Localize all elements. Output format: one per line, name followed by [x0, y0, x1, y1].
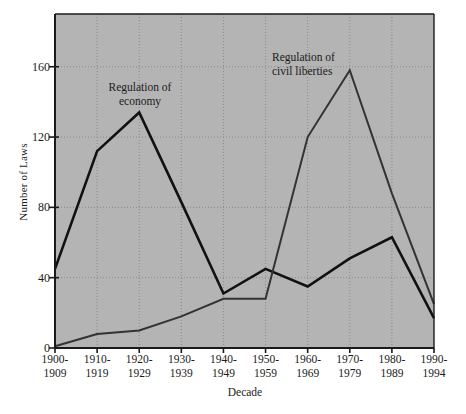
y-tick-label: 160: [16, 61, 50, 73]
y-tick-label: 40: [16, 272, 50, 284]
annotation-economy-line2: economy: [86, 94, 194, 108]
x-tick-label: 1990-1994: [406, 352, 462, 380]
annotation-economy-line1: Regulation of: [86, 80, 194, 94]
annotation-civil-line1: Regulation of: [272, 50, 380, 64]
annotation-regulation-of-economy: Regulation of economy: [86, 80, 194, 108]
x-tick-label-line: 1990-: [406, 352, 462, 366]
annotation-civil-line2: civil liberties: [272, 64, 380, 78]
chart-figure: Number of Laws 04080120160 1900-19091910…: [0, 0, 466, 414]
x-tick-label-line: 1994: [406, 366, 462, 380]
x-axis-title: Decade: [55, 386, 435, 398]
y-tick-label: 120: [16, 131, 50, 143]
annotation-regulation-of-civil-liberties: Regulation of civil liberties: [272, 50, 380, 78]
y-tick-label: 80: [16, 201, 50, 213]
